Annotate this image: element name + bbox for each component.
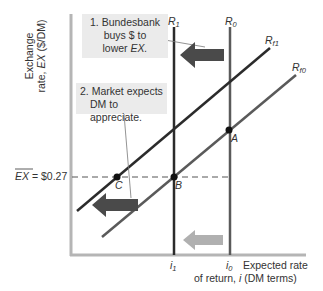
- label-point-a: A: [231, 132, 238, 144]
- note1-line1: 1. Bundesbank: [82, 16, 168, 29]
- tick-i1: i1: [170, 259, 177, 273]
- note2-line1: 2. Market expects: [80, 85, 167, 98]
- annotation-bundesbank: 1. Bundesbank buys $ to lower EX.: [82, 14, 168, 58]
- fixed-rate-value: = $0.27: [29, 170, 67, 182]
- note1-line2: buys $ to: [82, 29, 168, 42]
- tick-i0: i0: [226, 259, 233, 273]
- x-axis-label-line1: Expected rate: [243, 259, 308, 272]
- annotation-market-expects: 2. Market expects DM to appreciate.: [76, 83, 167, 114]
- label-point-b: B: [175, 179, 182, 191]
- label-rf1: Rf1: [265, 34, 279, 48]
- label-rf0: Rf0: [292, 61, 306, 75]
- label-r0: R0: [225, 15, 237, 29]
- y-axis-label-prefix: rate,: [35, 69, 47, 93]
- y-axis-label-unit: ($/DM): [35, 20, 47, 55]
- shift-arrow-r-icon: [180, 42, 224, 68]
- y-axis-label-line1: Exchange: [23, 11, 35, 101]
- note1-line3-prefix: lower: [103, 42, 131, 54]
- label-r1: R1: [168, 15, 180, 29]
- y-axis-label-var: EX: [35, 55, 47, 69]
- callout-line-note1: [165, 40, 205, 47]
- x-axis-label-line2: of return, i (DM terms): [194, 272, 297, 285]
- fixed-rate-label: EX = $0.27: [15, 170, 67, 182]
- shift-arrow-rate-icon: [183, 230, 223, 250]
- callout-line-note2: [124, 114, 131, 198]
- note2-line2: DM to appreciate.: [80, 98, 167, 124]
- label-point-c: C: [115, 179, 123, 191]
- fixed-rate-var: EX: [15, 170, 29, 182]
- y-axis-label: Exchange rate, EX ($/DM): [10, 14, 60, 104]
- note1-line3-var: EX.: [131, 42, 148, 54]
